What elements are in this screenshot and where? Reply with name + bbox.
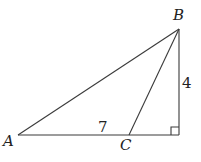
right-angle-marker (171, 127, 179, 135)
length-label-AC: 7 (98, 118, 108, 136)
point-label-A: A (1, 132, 14, 150)
point-label-C: C (120, 136, 132, 154)
point-label-B: B (172, 6, 184, 24)
triangle-diagram: A B C 7 4 (0, 0, 201, 162)
length-label-BD: 4 (182, 74, 192, 92)
